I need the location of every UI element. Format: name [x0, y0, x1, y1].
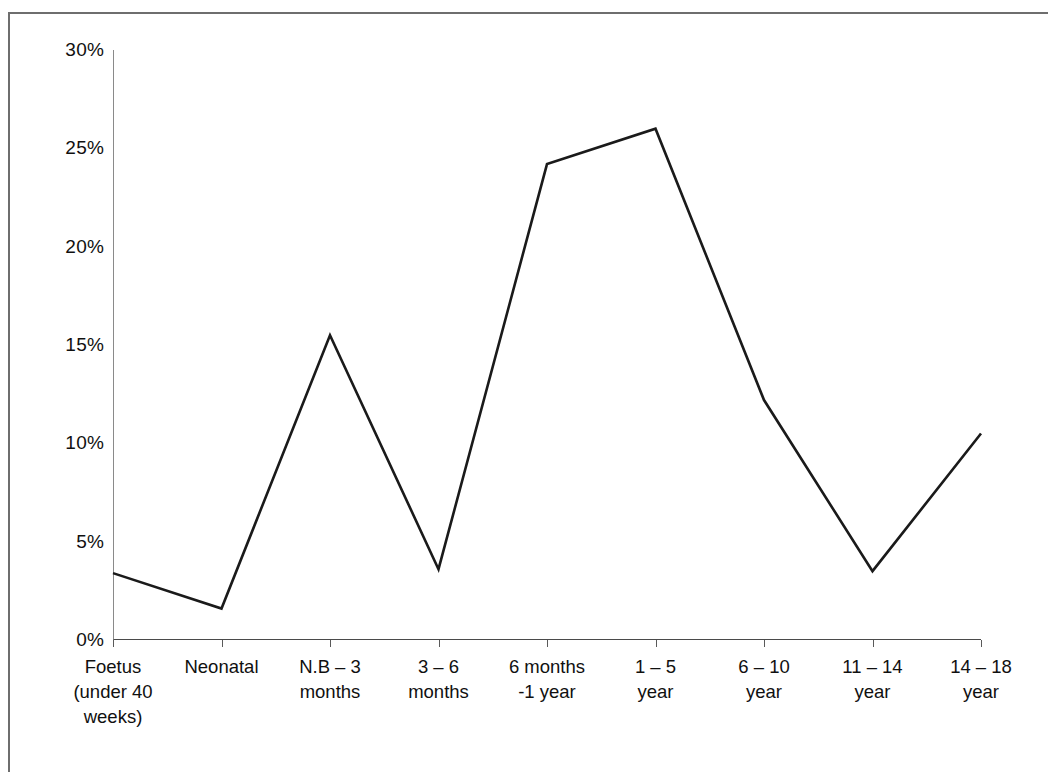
y-axis-tick-label: 30% [26, 40, 104, 59]
y-axis-tick-label: 20% [26, 237, 104, 256]
x-axis-tick-label: Neonatal [166, 654, 278, 679]
x-axis-tick [222, 640, 223, 647]
x-axis-tick [764, 640, 765, 647]
y-axis-labels: 30%25%20%15%10%5%0% [20, 0, 104, 753]
x-axis-tick [113, 640, 114, 647]
x-axis-tick [547, 640, 548, 647]
x-axis-tick [656, 640, 657, 647]
y-axis-tick-label: 10% [26, 433, 104, 452]
x-axis-tick-label: 3 – 6 months [383, 654, 495, 704]
x-axis-tick [981, 640, 982, 647]
x-axis-tick-label: 6 months -1 year [491, 654, 603, 704]
y-axis-tick-label: 5% [26, 532, 104, 551]
x-axis-tick-label: 6 – 10 year [708, 654, 820, 704]
plot-area [113, 50, 981, 640]
y-axis-tick-label: 25% [26, 138, 104, 157]
x-axis-tick [439, 640, 440, 647]
x-axis-tick-label: 1 – 5 year [600, 654, 712, 704]
x-axis-labels: Foetus (under 40 weeks)NeonatalN.B – 3 m… [113, 654, 981, 753]
x-axis-tick [873, 640, 874, 647]
y-axis-tick-label: 0% [26, 630, 104, 649]
x-axis-tick-label: Foetus (under 40 weeks) [57, 654, 169, 729]
x-axis-tick-label: 14 – 18 year [925, 654, 1037, 704]
x-axis-tick-label: 11 – 14 year [817, 654, 929, 704]
y-axis-tick-label: 15% [26, 335, 104, 354]
x-axis-tick [330, 640, 331, 647]
x-axis-tick-label: N.B – 3 months [274, 654, 386, 704]
